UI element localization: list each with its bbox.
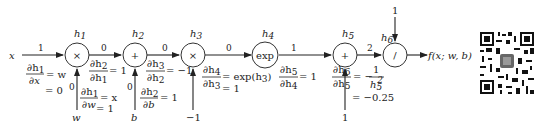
value-h1-h2: 0	[101, 43, 107, 53]
svg-text:∂h5: ∂h5	[333, 78, 351, 91]
op-add-h5: +	[341, 50, 349, 61]
svg-text:∂x: ∂x	[29, 75, 40, 86]
value-h4-h5: 1	[291, 43, 297, 53]
svg-text:= x: = x	[100, 92, 118, 103]
svg-text:∂h4: ∂h4	[203, 64, 221, 77]
node-label-h5: h5	[342, 28, 354, 41]
input-w: w	[72, 112, 81, 123]
derivative-dh6-dh5: ∂h6 ∂h5 = − 1 h52 = −0.25	[332, 64, 394, 103]
svg-text:= 1: = 1	[109, 65, 127, 76]
derivative-dh1-dx: ∂h1 ∂x = w = 0	[26, 62, 67, 96]
node-label-h1: h1	[74, 28, 86, 41]
svg-text:= 1: = 1	[96, 103, 114, 114]
svg-text:∂h3: ∂h3	[203, 78, 221, 91]
svg-text:∂h4: ∂h4	[280, 78, 298, 91]
svg-text:∂h2: ∂h2	[90, 58, 107, 71]
svg-text:= w: = w	[46, 69, 67, 80]
value-w-h1: 0	[69, 82, 75, 92]
derivative-dh5-dh4: ∂h5 ∂h4 = 1	[279, 64, 317, 91]
node-label-h2: h2	[132, 28, 144, 41]
op-add-h2: +	[131, 50, 139, 61]
input-x: x	[9, 50, 15, 61]
svg-text:∂h1: ∂h1	[81, 86, 98, 99]
svg-text:∂h2: ∂h2	[141, 86, 158, 99]
input-one-h6: 1	[392, 5, 398, 16]
svg-text:= −1: = −1	[166, 65, 192, 76]
svg-text:∂h1: ∂h1	[27, 62, 44, 75]
svg-text:∂h1: ∂h1	[90, 72, 107, 85]
input-neg1: −1	[186, 112, 201, 123]
node-label-h3: h3	[190, 28, 202, 41]
output-f: f(x; w, b)	[427, 50, 472, 61]
svg-text:= −0.25: = −0.25	[352, 92, 394, 103]
svg-text:∂h5: ∂h5	[280, 64, 298, 77]
derivative-dh2-dh1: ∂h2 ∂h1 = 1	[89, 58, 127, 85]
svg-text:= 1: = 1	[160, 92, 178, 103]
value-h2-h3: 0	[162, 43, 168, 53]
computation-graph: × + × exp + / h1 h2 h3 h4 h5 h6 x w b −1…	[0, 0, 546, 128]
qr-code	[478, 30, 536, 96]
node-label-h4: h4	[262, 28, 274, 41]
svg-text:1: 1	[373, 64, 379, 75]
svg-text:= 1: = 1	[299, 71, 317, 82]
value-x-h1: 1	[38, 43, 44, 53]
op-multiply-h1: ×	[73, 50, 81, 61]
value-b-h2: 0	[127, 82, 133, 92]
derivative-dh1-dw: ∂h1 ∂w = x = 1	[80, 86, 118, 114]
derivative-dh2-db: ∂h2 ∂b = 1	[140, 86, 178, 110]
input-b: b	[131, 112, 137, 123]
svg-text:= 0: = 0	[45, 85, 63, 96]
svg-text:∂h2: ∂h2	[147, 72, 164, 85]
svg-text:∂b: ∂b	[143, 99, 155, 110]
svg-text:∂h3: ∂h3	[147, 58, 165, 71]
input-one-h5: 1	[342, 112, 348, 123]
value-h3-h4: 0	[226, 43, 232, 53]
value-h5-h6: 2	[367, 43, 373, 53]
op-exp-h4: exp	[256, 50, 274, 61]
svg-text:∂w: ∂w	[82, 99, 96, 110]
node-label-h6: h6	[381, 32, 393, 45]
svg-text:= 1: = 1	[222, 83, 240, 94]
op-multiply-h3: ×	[189, 50, 197, 61]
derivative-dh4-dh3: ∂h4 ∂h3 = exp(h3) = 1	[202, 64, 272, 94]
